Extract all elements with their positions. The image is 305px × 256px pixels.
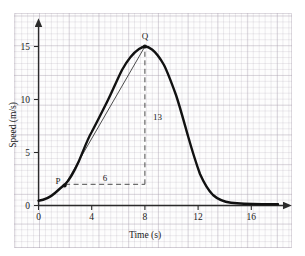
x-axis-title: Time (s) bbox=[129, 230, 161, 241]
y-tick-label-15: 15 bbox=[21, 42, 31, 52]
y-axis-title: Speed (m/s) bbox=[8, 102, 19, 148]
rise-length-label: 13 bbox=[153, 112, 163, 122]
point-label-q: Q bbox=[142, 31, 149, 41]
chart-figure: 0 4 8 12 16 0 5 10 15 Time (s) Speed (m/… bbox=[0, 0, 305, 256]
point-marker-q bbox=[143, 44, 147, 48]
x-tick-label-4: 4 bbox=[89, 212, 94, 222]
run-length-label: 6 bbox=[103, 173, 108, 183]
x-tick-label-0: 0 bbox=[36, 212, 41, 222]
x-tick-label-8: 8 bbox=[143, 212, 148, 222]
speed-time-graph: 0 4 8 12 16 0 5 10 15 Time (s) Speed (m/… bbox=[0, 0, 305, 256]
point-label-p: P bbox=[55, 176, 60, 186]
speed-time-curve bbox=[39, 46, 279, 204]
x-tick-label-12: 12 bbox=[193, 212, 203, 222]
y-tick-label-5: 5 bbox=[25, 148, 30, 158]
point-marker-p bbox=[63, 183, 67, 187]
x-tick-label-16: 16 bbox=[247, 212, 257, 222]
y-tick-label-0: 0 bbox=[25, 201, 30, 211]
y-tick-label-10: 10 bbox=[21, 95, 31, 105]
